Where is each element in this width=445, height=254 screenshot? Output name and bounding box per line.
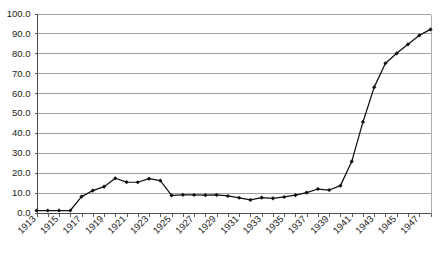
chart-background: [0, 0, 445, 254]
y-axis-tick-label: 30.0: [12, 147, 31, 158]
y-axis-tick-label: 100.0: [7, 8, 31, 19]
y-axis-tick-label: 40.0: [12, 127, 31, 138]
y-axis-tick-label: 90.0: [12, 28, 31, 39]
y-axis-tick-label: 70.0: [12, 68, 31, 79]
y-axis-tick-label: 10.0: [12, 187, 31, 198]
line-chart: 0.010.020.030.040.050.060.070.080.090.01…: [0, 0, 445, 254]
y-axis-tick-label: 20.0: [12, 167, 31, 178]
chart-canvas: 0.010.020.030.040.050.060.070.080.090.01…: [0, 0, 445, 254]
y-axis-tick-label: 80.0: [12, 48, 31, 59]
y-axis-tick-label: 60.0: [12, 88, 31, 99]
y-axis-tick-label: 50.0: [12, 107, 31, 118]
